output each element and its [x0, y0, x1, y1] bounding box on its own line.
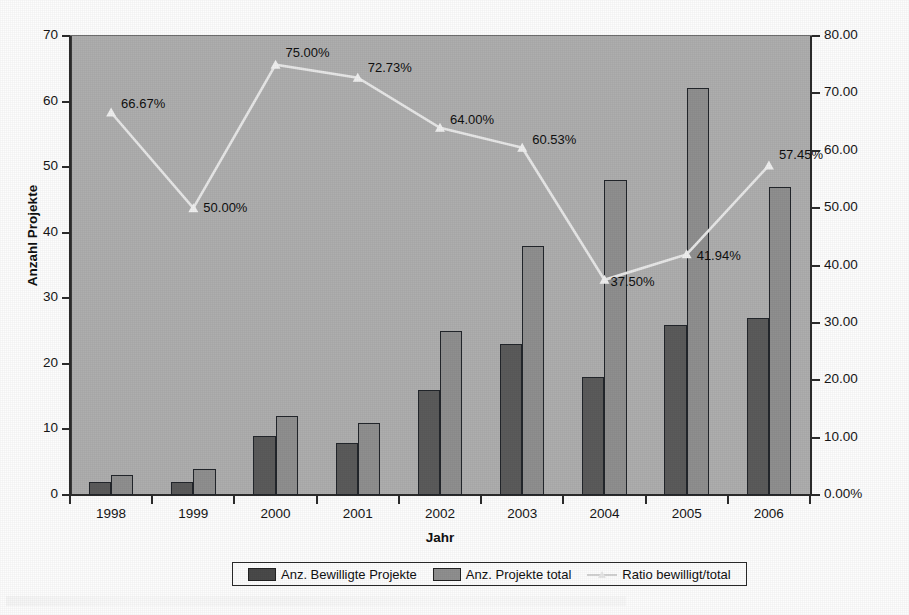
- legend-item-total[interactable]: Anz. Projekte total: [425, 567, 580, 582]
- x-tick-label: 2003: [477, 506, 567, 521]
- x-tick-label: 1999: [148, 506, 238, 521]
- bar-approved: [664, 325, 686, 495]
- plot-top-border: [70, 35, 812, 36]
- legend-label-approved: Anz. Bewilligte Projekte: [281, 567, 417, 582]
- y2-tick-mark: [812, 379, 820, 381]
- bar-total: [276, 416, 298, 495]
- ratio-value-label: 50.00%: [203, 200, 247, 215]
- y-tick-mark: [62, 101, 70, 103]
- ratio-value-label: 37.50%: [610, 274, 654, 289]
- x-tick-mark: [151, 496, 153, 504]
- x-tick-label: 2006: [724, 506, 814, 521]
- x-tick-mark: [480, 496, 482, 504]
- bar-approved: [500, 344, 522, 495]
- y2-tick-mark: [812, 437, 820, 439]
- y2-tick-label: 50.00: [824, 199, 894, 214]
- x-tick-mark: [233, 496, 235, 504]
- y-tick-mark: [62, 363, 70, 365]
- x-tick-label: 2002: [395, 506, 485, 521]
- bar-approved: [253, 436, 275, 495]
- x-tick-mark: [645, 496, 647, 504]
- bar-approved: [418, 390, 440, 495]
- bar-total: [440, 331, 462, 495]
- ratio-value-label: 64.00%: [450, 112, 494, 127]
- y2-tick-mark: [812, 207, 820, 209]
- bar-approved: [171, 482, 193, 495]
- legend-item-ratio[interactable]: Ratio bewilligt/total: [579, 567, 738, 582]
- chart-legend: Anz. Bewilligte Projekte Anz. Projekte t…: [232, 562, 747, 586]
- bar-approved: [336, 443, 358, 495]
- y-tick-mark: [62, 166, 70, 168]
- y2-tick-label: 20.00: [824, 371, 894, 386]
- y-tick-label: 20: [20, 355, 58, 370]
- x-tick-mark: [398, 496, 400, 504]
- bar-total: [193, 469, 215, 495]
- x-axis-title: Jahr: [0, 530, 880, 545]
- y2-tick-mark: [812, 92, 820, 94]
- x-tick-mark: [316, 496, 318, 504]
- x-tick-label: 2005: [642, 506, 732, 521]
- x-tick-label: 2001: [313, 506, 403, 521]
- legend-swatch-total-icon: [433, 568, 461, 581]
- ratio-value-label: 72.73%: [368, 60, 412, 75]
- y-axis-title: Anzahl Projekte: [25, 156, 40, 316]
- y-tick-mark: [62, 428, 70, 430]
- y2-tick-label: 0.00%: [824, 486, 894, 501]
- y2-tick-mark: [812, 150, 820, 152]
- bar-approved: [582, 377, 604, 495]
- bar-total: [604, 180, 626, 495]
- ratio-value-label: 60.53%: [532, 132, 576, 147]
- x-tick-mark: [727, 496, 729, 504]
- chart-container: 66.67%50.00%75.00%72.73%64.00%60.53%37.5…: [0, 0, 909, 615]
- ratio-value-label: 75.00%: [286, 45, 330, 60]
- y-tick-label: 60: [20, 93, 58, 108]
- y2-tick-label: 30.00: [824, 314, 894, 329]
- y-tick-label: 10: [20, 420, 58, 435]
- y2-tick-mark: [812, 35, 820, 37]
- legend-item-approved[interactable]: Anz. Bewilligte Projekte: [240, 567, 425, 582]
- y-tick-mark: [62, 297, 70, 299]
- y-tick-mark: [62, 232, 70, 234]
- bar-total: [111, 475, 133, 495]
- legend-label-ratio: Ratio bewilligt/total: [622, 567, 730, 582]
- x-tick-mark: [809, 496, 811, 504]
- legend-label-total: Anz. Projekte total: [466, 567, 572, 582]
- y-tick-mark: [62, 35, 70, 37]
- legend-line-marker-icon: [587, 569, 617, 580]
- y2-tick-label: 60.00: [824, 142, 894, 157]
- bar-approved: [89, 482, 111, 495]
- ratio-value-label: 66.67%: [121, 96, 165, 111]
- y2-tick-label: 10.00: [824, 429, 894, 444]
- y-tick-label: 70: [20, 27, 58, 42]
- y-tick-label: 0: [20, 486, 58, 501]
- x-tick-label: 2000: [231, 506, 321, 521]
- y2-tick-label: 70.00: [824, 84, 894, 99]
- legend-swatch-approved-icon: [248, 568, 276, 581]
- bar-total: [769, 187, 791, 495]
- y2-tick-label: 80.00: [824, 27, 894, 42]
- x-tick-label: 1998: [66, 506, 156, 521]
- x-tick-label: 2004: [559, 506, 649, 521]
- y-axis-line: [69, 36, 71, 496]
- scan-footer-artifact: [6, 596, 626, 606]
- ratio-value-label: 41.94%: [697, 248, 741, 263]
- y2-tick-mark: [812, 494, 820, 496]
- y2-tick-mark: [812, 265, 820, 267]
- bar-total: [687, 88, 709, 495]
- bar-approved: [747, 318, 769, 495]
- x-tick-mark: [562, 496, 564, 504]
- bar-total: [522, 246, 544, 495]
- x-tick-mark: [69, 496, 71, 504]
- bar-total: [358, 423, 380, 495]
- y2-tick-mark: [812, 322, 820, 324]
- y2-tick-label: 40.00: [824, 257, 894, 272]
